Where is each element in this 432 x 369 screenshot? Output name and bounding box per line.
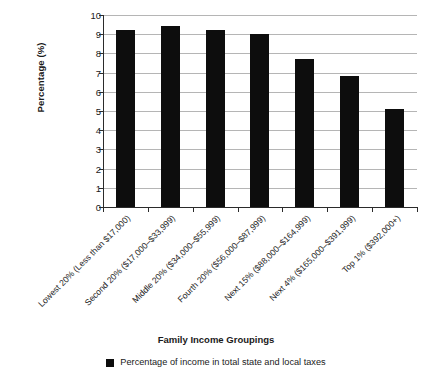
bar — [116, 30, 135, 207]
x-axis-title: Family Income Groupings — [0, 334, 432, 345]
y-tick-label: 5 — [79, 107, 101, 116]
bar — [385, 109, 404, 207]
y-tick-mark — [99, 149, 103, 150]
y-tick-mark — [99, 53, 103, 54]
y-tick-mark — [99, 130, 103, 131]
x-axis-category-labels: Lowest 20% (Less than $17,000)Second 20%… — [0, 207, 432, 327]
y-tick-label: 1 — [79, 183, 101, 192]
y-tick-label: 8 — [79, 49, 101, 58]
y-axis-ticks: 109876543210 — [77, 15, 101, 208]
bar — [161, 26, 180, 207]
y-tick-label: 6 — [79, 87, 101, 96]
bar-chart: Percentage (%) 109876543210 Lowest 20% (… — [0, 0, 432, 369]
y-tick-mark — [99, 111, 103, 112]
y-tick-mark — [99, 92, 103, 93]
gridline — [103, 15, 417, 16]
legend-swatch-icon — [106, 359, 114, 367]
y-tick-mark — [99, 34, 103, 35]
y-axis-title: Percentage (%) — [35, 0, 46, 158]
y-tick-mark — [99, 169, 103, 170]
y-tick-mark — [99, 207, 103, 208]
y-tick-label: 9 — [79, 30, 101, 39]
chart-legend: Percentage of income in total state and … — [0, 357, 432, 368]
y-tick-mark — [99, 73, 103, 74]
y-tick-label: 7 — [79, 68, 101, 77]
y-tick-mark — [99, 15, 103, 16]
bar — [295, 59, 314, 207]
y-tick-label: 3 — [79, 145, 101, 154]
y-tick-label: 10 — [79, 11, 101, 20]
plot-area — [103, 15, 417, 207]
y-axis-line — [103, 15, 104, 208]
bar — [206, 30, 225, 207]
y-tick-label: 2 — [79, 164, 101, 173]
bar — [250, 34, 269, 207]
y-tick-mark — [99, 188, 103, 189]
y-tick-label: 4 — [79, 126, 101, 135]
legend-label: Percentage of income in total state and … — [120, 357, 325, 368]
bar — [340, 76, 359, 207]
